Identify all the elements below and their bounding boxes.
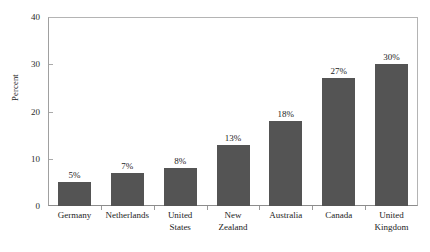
y-tick-label: 10	[16, 154, 40, 164]
category-label-line: Netherlands	[101, 210, 154, 222]
bar-chart-figure: Percent 010203040 5%7%8%13%18%27%30% Ger…	[0, 0, 430, 252]
bar	[217, 145, 250, 206]
bar	[164, 168, 197, 206]
bar	[111, 173, 144, 206]
y-tick-label: 20	[16, 107, 40, 117]
category-label: Canada	[312, 210, 365, 222]
y-tick-label: 30	[16, 59, 40, 69]
category-label: NewZealand	[207, 210, 260, 233]
category-label: Netherlands	[101, 210, 154, 222]
y-tick-label: 0	[16, 201, 40, 211]
category-label-line: United	[365, 210, 418, 222]
bar-value-label: 30%	[365, 52, 418, 62]
bar	[375, 64, 408, 206]
category-label-line: Australia	[259, 210, 312, 222]
category-label-line: Zealand	[207, 222, 260, 234]
category-label: Germany	[48, 210, 101, 222]
bar-value-label: 8%	[154, 156, 207, 166]
bar	[322, 78, 355, 206]
y-tick-label: 40	[16, 12, 40, 22]
bar-value-label: 18%	[259, 109, 312, 119]
bar-value-label: 27%	[312, 66, 365, 76]
bar-value-label: 5%	[48, 170, 101, 180]
category-label-line: Germany	[48, 210, 101, 222]
category-label-line: United	[154, 210, 207, 222]
category-label-line: New	[207, 210, 260, 222]
category-label-line: Canada	[312, 210, 365, 222]
category-label-line: States	[154, 222, 207, 234]
category-label: Australia	[259, 210, 312, 222]
bar-value-label: 7%	[101, 161, 154, 171]
bar	[269, 121, 302, 206]
bar	[58, 182, 91, 206]
category-label: UnitedKingdom	[365, 210, 418, 233]
category-label-line: Kingdom	[365, 222, 418, 234]
category-label: UnitedStates	[154, 210, 207, 233]
bar-value-label: 13%	[207, 133, 260, 143]
